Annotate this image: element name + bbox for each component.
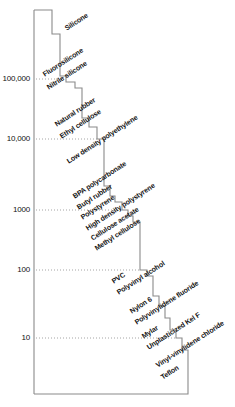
y-tick-label: 100,000	[0, 75, 30, 83]
y-tick-label: 10	[0, 334, 30, 342]
y-tick-label: 100	[0, 266, 30, 274]
y-tick-label: 1000	[0, 206, 30, 214]
permeability-staircase-chart: 100,00010,000100010010 SiliconeFluorosil…	[0, 0, 235, 407]
y-tick-label: 10,000	[0, 135, 30, 143]
